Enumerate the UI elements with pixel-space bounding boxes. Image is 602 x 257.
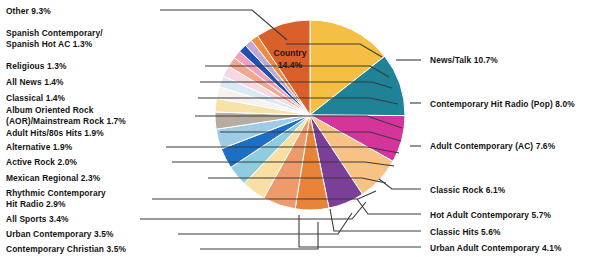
callout-label-right: Urban Adult Contemporary 4.1% [430,243,562,254]
callout-label-right: Contemporary Hit Radio (Pop) 8.0% [430,99,575,110]
callout-label-left: Contemporary Christian 3.5% [6,244,126,255]
pie-chart-figure: Country 14.4% Other 9.3%Spanish Contempo… [0,0,602,257]
leader-hotac [357,199,421,214]
callout-label-left: Rhythmic ContemporaryHit Radio 2.9% [6,188,106,211]
callout-label-left: Mexican Regional 2.3% [6,173,100,184]
callout-label-line: Rhythmic Contemporary [6,188,106,199]
callout-label-left: All News 1.4% [6,77,64,88]
callout-label-left: Active Rock 2.0% [6,157,77,168]
slice-label-country-name: Country [274,48,307,58]
callout-label-left: Classical 1.4% [6,93,65,104]
callout-label-left: Alternative 1.9% [6,142,72,153]
callout-label-right: Adult Contemporary (AC) 7.6% [430,141,555,152]
callout-label-right: News/Talk 10.7% [430,55,498,66]
callout-label-left: Spanish Contemporary/Spanish Hot AC 1.3% [6,28,103,51]
callout-label-line: Contemporary Christian 3.5% [6,244,126,255]
callout-label-line: All News 1.4% [6,77,64,88]
callout-label-line: Active Rock 2.0% [6,157,77,168]
callout-label-line: Adult Hits/80s Hits 1.9% [6,128,104,139]
leader-urbancontemp [178,213,352,234]
callout-label-right: Classic Rock 6.1% [430,185,505,196]
callout-label-line: Classical 1.4% [6,93,65,104]
callout-label-line: (AOR)/Mainstream Rock 1.7% [6,116,126,127]
callout-label-right: Hot Adult Contemporary 5.7% [430,210,551,221]
leader-classicrock [379,179,421,189]
callout-label-line: Religious 1.3% [6,61,67,72]
callout-label-line: Hit Radio 2.9% [6,199,106,210]
callout-label-line: All Sports 3.4% [6,214,68,225]
callout-label-line: Album Oriented Rock [6,105,126,116]
leader-contempchristian [200,222,318,249]
callout-label-left: Album Oriented Rock(AOR)/Mainstream Rock… [6,105,126,128]
callout-label-line: Other 9.3% [6,6,51,17]
callout-label-left: Adult Hits/80s Hits 1.9% [6,128,104,139]
callout-label-left: Other 9.3% [6,6,51,17]
callout-label-line: Spanish Hot AC 1.3% [6,39,103,50]
leader-classichits [330,209,421,231]
callout-label-line: Mexican Regional 2.3% [6,173,100,184]
callout-label-line: Alternative 1.9% [6,142,72,153]
callout-label-left: Religious 1.3% [6,61,67,72]
callout-label-left: Urban Contemporary 3.5% [6,229,113,240]
callout-label-line: Urban Contemporary 3.5% [6,229,113,240]
callout-label-left: All Sports 3.4% [6,214,68,225]
slice-label-country-value: 14.4% [278,60,303,70]
callout-label-line: Spanish Contemporary/ [6,28,103,39]
callout-label-right: Classic Hits 5.6% [430,227,501,238]
